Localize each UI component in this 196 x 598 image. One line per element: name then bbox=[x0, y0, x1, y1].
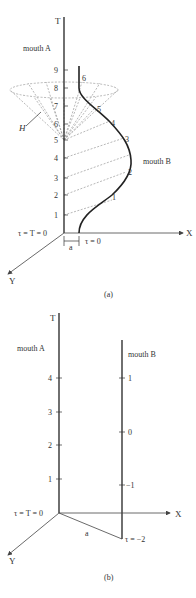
svg-text:8: 8 bbox=[54, 84, 58, 93]
svg-text:6: 6 bbox=[54, 120, 58, 129]
mouth-b-worldline bbox=[79, 66, 131, 233]
svg-text:3: 3 bbox=[54, 174, 58, 183]
mouth-a-label: mouth A bbox=[23, 44, 51, 53]
tau-end-label: τ = −2 bbox=[125, 535, 145, 544]
caption-b: (b) bbox=[104, 573, 114, 582]
mouth-a-label-b: mouth A bbox=[17, 344, 45, 353]
svg-text:1: 1 bbox=[112, 193, 116, 202]
svg-text:2: 2 bbox=[48, 441, 52, 450]
mouth-b-label: mouth B bbox=[143, 157, 171, 166]
t-axis-label: T bbox=[55, 16, 61, 26]
separation-label: a bbox=[69, 243, 73, 252]
svg-text:3: 3 bbox=[48, 408, 52, 417]
svg-text:0: 0 bbox=[128, 428, 132, 437]
tau-start-label: τ = 0 bbox=[85, 237, 101, 246]
svg-text:4: 4 bbox=[54, 154, 58, 163]
svg-text:5: 5 bbox=[97, 105, 101, 114]
svg-text:6: 6 bbox=[82, 74, 86, 83]
horizon-pointer bbox=[26, 112, 41, 126]
wormhole-diagram: T X Y τ = T = 0 mouth A mouth B 1 2 3 4 … bbox=[0, 0, 196, 598]
svg-text:4: 4 bbox=[111, 119, 115, 128]
t-axis-label-b: T bbox=[50, 313, 56, 323]
t-tick-labels: 1 2 3 4 5 6 7 8 9 bbox=[54, 66, 58, 220]
tau-tick-labels: 1 2 3 4 5 6 bbox=[82, 74, 132, 202]
horizon-label: H bbox=[18, 123, 26, 133]
x-axis-label-b: X bbox=[175, 509, 182, 519]
separation-line-b bbox=[59, 513, 122, 539]
svg-text:2: 2 bbox=[54, 191, 58, 200]
origin-label-b: τ = T = 0 bbox=[14, 509, 43, 518]
mouth-b-label-b: mouth B bbox=[128, 350, 156, 359]
svg-text:1: 1 bbox=[54, 211, 58, 220]
t-tick-labels-b: 4 3 2 1 bbox=[48, 374, 52, 484]
svg-text:9: 9 bbox=[54, 66, 58, 75]
svg-text:2: 2 bbox=[128, 168, 132, 177]
tau-tick-labels-b: 1 0 −1 bbox=[126, 374, 135, 490]
svg-text:−1: −1 bbox=[126, 481, 135, 490]
figure-a: T X Y τ = T = 0 mouth A mouth B 1 2 3 4 … bbox=[8, 16, 193, 299]
y-axis-label-b: Y bbox=[9, 556, 16, 566]
y-axis bbox=[8, 233, 64, 274]
x-axis-label: X bbox=[186, 228, 193, 238]
y-axis-label: Y bbox=[9, 276, 16, 286]
svg-text:3: 3 bbox=[125, 135, 129, 144]
separation-label-b: a bbox=[85, 529, 89, 538]
svg-text:7: 7 bbox=[54, 102, 58, 111]
origin-label: τ = T = 0 bbox=[18, 229, 47, 238]
svg-text:1: 1 bbox=[128, 374, 132, 383]
svg-text:1: 1 bbox=[48, 475, 52, 484]
caption-a: (a) bbox=[104, 290, 113, 299]
svg-text:4: 4 bbox=[48, 374, 52, 383]
y-axis-b bbox=[8, 513, 59, 555]
svg-text:5: 5 bbox=[54, 136, 58, 145]
figure-b: T mouth A 4 3 2 1 mouth B 1 0 −1 τ = −2 bbox=[8, 313, 182, 582]
